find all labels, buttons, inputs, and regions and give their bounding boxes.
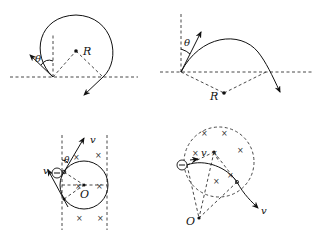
field-cross: × bbox=[97, 214, 104, 223]
field-cross: × bbox=[76, 214, 83, 223]
radius-line bbox=[187, 165, 199, 218]
panel-top-left: R θ bbox=[10, 15, 138, 95]
radius-label: R bbox=[209, 90, 218, 103]
panel-bottom-right: O v v × × × × × × × bbox=[177, 127, 267, 228]
field-cross: × bbox=[192, 149, 199, 158]
field-cross: × bbox=[211, 149, 218, 158]
trajectory-arc bbox=[181, 39, 280, 92]
field-cross: × bbox=[213, 177, 220, 186]
center-dot bbox=[82, 183, 85, 186]
trajectory-arc bbox=[40, 15, 113, 77]
angle-arc bbox=[181, 49, 190, 54]
field-cross: × bbox=[237, 146, 244, 155]
panel-top-right: R θ bbox=[160, 12, 312, 103]
center-dot bbox=[74, 49, 78, 53]
field-cross: × bbox=[95, 151, 102, 160]
angle-label: θ bbox=[184, 37, 190, 48]
velocity-label-in: v bbox=[90, 134, 96, 145]
velocity-label-in: v bbox=[201, 147, 207, 158]
radius-line bbox=[224, 72, 266, 93]
radius-line bbox=[53, 51, 76, 77]
angle-label: θ bbox=[64, 155, 70, 165]
panel-bottom-left: O v v θ × × × × × × bbox=[43, 134, 108, 230]
physics-diagram: R θ R θ O v v bbox=[0, 0, 316, 238]
trajectory-arc bbox=[187, 163, 258, 208]
radius-line bbox=[199, 182, 237, 218]
velocity-label-out: v bbox=[261, 205, 267, 216]
field-cross: × bbox=[75, 182, 82, 191]
field-cross: × bbox=[227, 171, 234, 180]
orbit-center-dot bbox=[197, 216, 200, 219]
center-line bbox=[199, 152, 214, 218]
center-label: O bbox=[186, 215, 195, 228]
radius-label: R bbox=[82, 45, 91, 58]
angle-label: θ bbox=[35, 53, 41, 64]
center-dot bbox=[222, 91, 226, 95]
field-cross: × bbox=[73, 153, 80, 162]
exit-velocity-arrow bbox=[84, 77, 103, 95]
field-cross: × bbox=[201, 129, 208, 138]
velocity-label-out: v bbox=[43, 165, 49, 176]
field-cross: × bbox=[221, 129, 228, 138]
field-cross: × bbox=[96, 182, 103, 191]
